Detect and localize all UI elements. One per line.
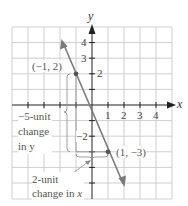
x-tick-2: 2 [121, 110, 127, 121]
coordinate-graph: y x 1 2 3 4 4 3 2 −2 (−1, 2) (1, −3) −5-… [0, 0, 188, 206]
y-axis-arrowhead-icon [89, 24, 96, 34]
annotation-arrowhead-icon [85, 160, 91, 165]
graph-canvas [0, 0, 188, 206]
x-change-variable: x [77, 187, 82, 199]
x-tick-3: 3 [137, 110, 143, 121]
x-tick-4: 4 [153, 110, 159, 121]
point-label-neg1-2: (−1, 2) [32, 60, 62, 72]
line-arrowhead-up-icon [60, 39, 68, 50]
y-change-line-3: in y [18, 139, 50, 154]
y-axis-label: y [88, 10, 93, 22]
y-change-line-1: −5-unit [18, 109, 50, 124]
point-neg1-2 [74, 71, 79, 76]
y-tick-3: 3 [81, 53, 87, 64]
x-change-line-2-text: change in [32, 187, 77, 199]
y-change-label: −5-unit change in y [18, 109, 52, 154]
point-1-neg3 [106, 149, 111, 154]
y-tick-2: 2 [97, 68, 103, 79]
y-tick-4: 4 [81, 37, 87, 48]
point-label-1-neg3: (1, −3) [116, 146, 146, 158]
x-tick-1: 1 [105, 110, 111, 121]
y-tick-neg2: −2 [76, 131, 88, 142]
x-change-line-2: change in x [32, 186, 82, 200]
x-change-line-1: 2-unit [32, 172, 82, 186]
graphed-line [64, 45, 122, 181]
x-axis-label: x [177, 98, 182, 110]
x-change-label: 2-unit change in x [32, 172, 84, 200]
y-change-line-2: change [18, 124, 50, 139]
change-guides [64, 74, 108, 173]
y-change-brace [64, 74, 70, 152]
